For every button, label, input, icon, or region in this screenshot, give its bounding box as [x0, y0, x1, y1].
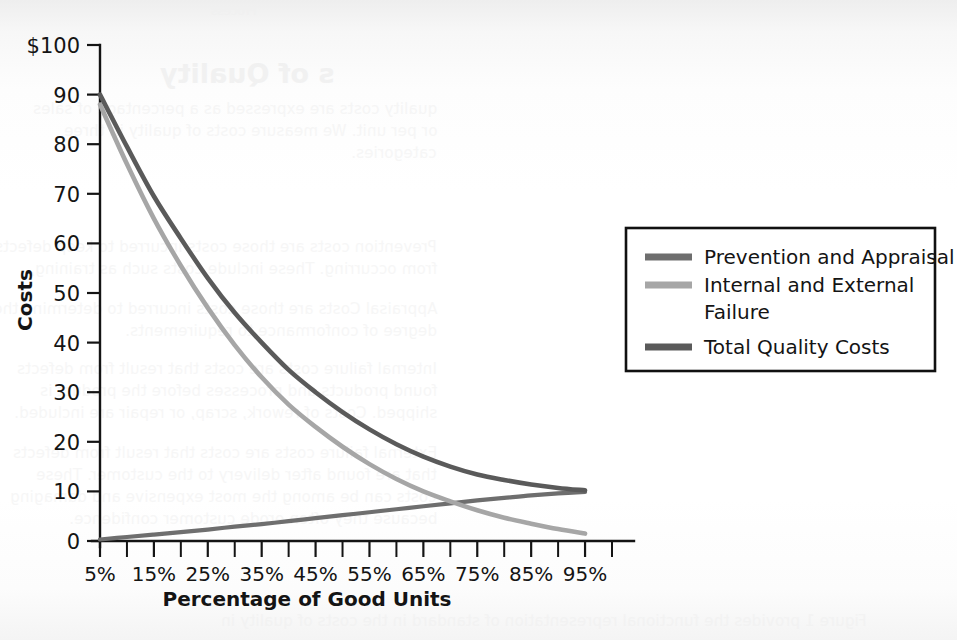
y-axis-title: Costs	[13, 269, 37, 331]
x-tick-label: 55%	[347, 562, 391, 586]
x-tick-label: 75%	[455, 562, 499, 586]
series-line-internal-and-external-failure	[100, 105, 585, 534]
legend-label-prevention-and-appraisal: Prevention and Appraisal	[704, 245, 955, 269]
x-axis-ticks	[100, 541, 612, 557]
y-tick-label: $100	[27, 34, 80, 58]
y-tick-label: 60	[53, 232, 80, 256]
legend-label-total-quality-costs: Total Quality Costs	[703, 335, 890, 359]
axes	[92, 45, 634, 547]
x-tick-label: 65%	[401, 562, 445, 586]
y-tick-label: 40	[53, 332, 80, 356]
y-tick-label: 90	[53, 84, 80, 108]
series-line-prevention-and-appraisal	[100, 492, 585, 540]
x-tick-label: 35%	[239, 562, 283, 586]
legend-label-internal-and-external: Internal and External	[704, 273, 914, 297]
quality-cost-chart: Costs 0102030405060708090$100 5%15%25%35…	[0, 0, 957, 640]
y-tick-label: 50	[53, 282, 80, 306]
series-line-total-quality-costs	[100, 95, 585, 491]
x-tick-label: 25%	[186, 562, 230, 586]
x-tick-label: 45%	[293, 562, 337, 586]
series-lines	[100, 95, 585, 540]
y-tick-label: 30	[53, 381, 80, 405]
x-tick-label: 5%	[84, 562, 116, 586]
legend-label-failure: Failure	[704, 300, 770, 324]
x-tick-label: 15%	[132, 562, 176, 586]
chart-svg: Costs 0102030405060708090$100 5%15%25%35…	[0, 0, 957, 640]
y-axis-title-text: Costs	[13, 269, 37, 331]
x-axis-title: Percentage of Good Units	[162, 587, 451, 611]
x-tick-label: 95%	[563, 562, 607, 586]
y-tick-label: 10	[53, 480, 80, 504]
x-axis-tick-labels: 5%15%25%35%45%55%65%75%85%95%	[84, 562, 607, 586]
y-axis-ticks	[87, 45, 100, 541]
y-tick-label: 20	[53, 431, 80, 455]
chart-legend: Prevention and Appraisal Internal and Ex…	[626, 228, 955, 371]
y-tick-label: 70	[53, 183, 80, 207]
y-tick-label: 0	[67, 530, 80, 554]
y-tick-label: 80	[53, 133, 80, 157]
x-tick-label: 85%	[509, 562, 553, 586]
